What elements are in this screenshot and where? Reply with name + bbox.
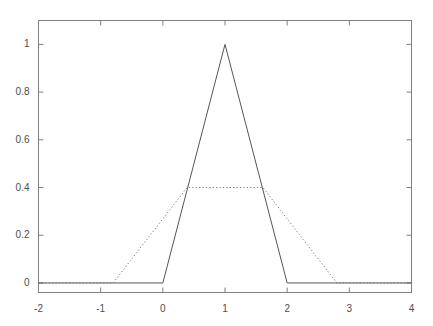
y-tick-label-1: 0.2 (0, 230, 30, 240)
x-tick-label-0: -2 (34, 304, 43, 314)
y-tick-label-0: 0 (0, 278, 30, 288)
y-tick-label-3: 0.6 (0, 135, 30, 145)
chart-figure: 00.20.40.60.81 -2-101234 (0, 0, 433, 326)
x-tick-label-6: 4 (409, 304, 415, 314)
plot-canvas (0, 0, 433, 326)
y-tick-label-4: 0.8 (0, 87, 30, 97)
x-tick-label-5: 3 (347, 304, 353, 314)
y-tick-label-2: 0.4 (0, 183, 30, 193)
x-tick-label-3: 1 (222, 304, 228, 314)
x-tick-label-2: 0 (160, 304, 166, 314)
y-tick-label-5: 1 (0, 39, 30, 49)
x-tick-label-1: -1 (96, 304, 105, 314)
x-tick-label-4: 2 (284, 304, 290, 314)
plot-frame (39, 21, 412, 293)
